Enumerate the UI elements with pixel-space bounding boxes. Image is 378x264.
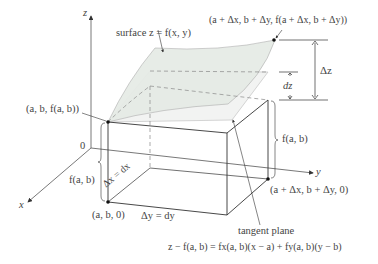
tangent-plane-label: tangent plane [238,225,294,237]
point-a-b-fab-label: (a, b, f(a, b)) [26,103,79,115]
point-a-b-0 [106,200,110,204]
height-brace-right [271,101,278,178]
diagram-svg [0,0,378,264]
tangent-equation: z − f(a, b) = fx(a, b)(x − a) + fy(a, b)… [168,241,342,253]
far-point-label: (a + Δx, b + Δy, 0) [270,184,348,196]
tangent-plane-diagram: z y x 0 surface z = f(x, y) (a + Δx, b +… [0,0,378,264]
delta-z-label: Δz [320,64,332,76]
height-right-label: f(a, b) [282,133,308,145]
delta-y-label: Δy = dy [141,210,175,222]
point-a-b-fab [106,120,110,124]
top-point-label: (a + Δx, b + Δy, f(a + Δx, b + Δy)) [209,14,347,26]
point-far-bottom [266,177,270,181]
z-axis-label: z [83,7,87,19]
height-brace-left [98,123,105,201]
surface-label: surface z = f(x, y) [116,27,191,39]
x-axis-label: x [19,199,24,211]
y-axis-label: y [316,166,321,178]
point-top [272,38,276,42]
height-left-label: f(a, b) [69,174,95,186]
point-a-b-0-label: (a, b, 0) [92,209,125,221]
dz-label: dz [283,80,292,92]
origin-label: 0 [80,140,85,152]
